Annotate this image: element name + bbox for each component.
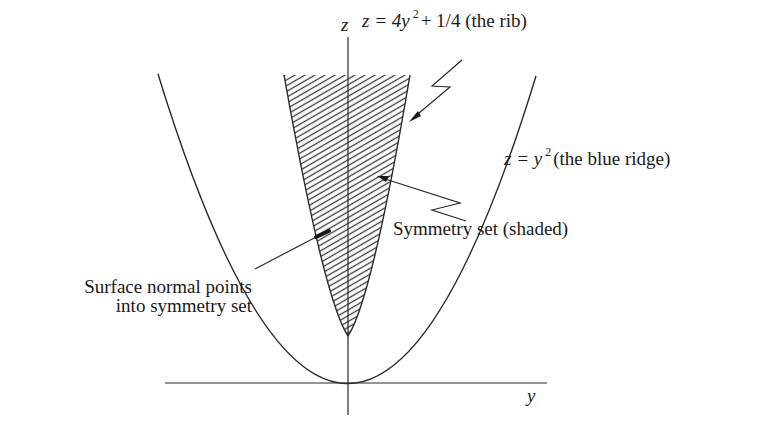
surface-normal-label: Surface normal points into symmetry set [28,277,252,315]
rib-label-exponent: 2 [413,7,419,21]
surface-normal-label-line1: Surface normal points [28,277,252,296]
symmetry-set-region [270,70,430,345]
rib-label-suffix: + 1/4 (the rib) [421,10,527,31]
rib-leader-arrow [409,60,462,122]
z-axis-label: z [341,15,348,34]
ridge-label-prefix: z = y [504,148,542,169]
ridge-label-suffix: (the blue ridge) [553,148,670,169]
ridge-label-exponent: 2 [545,145,551,159]
rib-label-prefix: z = 4y [362,10,410,31]
ridge-label: z = y2(the blue ridge) [504,146,670,168]
surface-normal-label-line2: into symmetry set [28,296,252,315]
y-axis-label: y [527,386,535,405]
symmetry-set-label: Symmetry set (shaded) [393,219,568,238]
rib-label: z = 4y2+ 1/4 (the rib) [362,8,527,30]
surface-normal-arrow [255,231,329,269]
diagram-canvas [0,0,762,434]
